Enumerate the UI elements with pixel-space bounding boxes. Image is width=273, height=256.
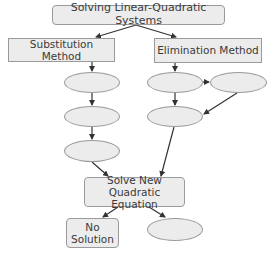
solve-quadratic-node: Solve New Quadratic Equation: [84, 177, 185, 207]
arrow-elim-step3-to-solve: [161, 127, 174, 176]
elimination-step-2-ellipse: [210, 72, 267, 93]
elimination-step-1-ellipse: [147, 72, 203, 93]
flowchart: Solving Linear-Quadratic Systems Substit…: [0, 0, 273, 256]
elimination-method-node: Elimination Method: [154, 38, 262, 63]
substitution-step-3-ellipse: [64, 140, 120, 162]
elimination-step-3-ellipse: [147, 106, 203, 127]
solution-result-ellipse: [147, 218, 203, 241]
substitution-method-node: Substitution Method: [8, 38, 115, 62]
substitution-step-2-ellipse: [64, 106, 120, 127]
title-node: Solving Linear-Quadratic Systems: [52, 5, 225, 25]
substitution-step-1-ellipse: [64, 72, 120, 93]
no-solution-node: No Solution: [66, 218, 119, 248]
arrow-elim-step2-to-step3: [204, 93, 237, 114]
